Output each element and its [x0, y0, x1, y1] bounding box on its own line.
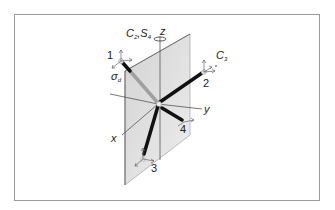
label-atom-1: 1: [107, 50, 113, 61]
label-axis-z: z: [160, 26, 166, 37]
label-c2-s4: C2,S4: [126, 28, 151, 40]
label-c3: C3: [216, 50, 227, 62]
atom-2-arrows-icon: [202, 60, 216, 75]
label-atom-2: 2: [203, 78, 209, 89]
bond-1-front: [122, 62, 130, 71]
label-axis-x: x: [111, 133, 117, 144]
label-atom-3: 3: [151, 163, 157, 174]
central-atom: [157, 102, 162, 107]
c3-axis-marker: [215, 65, 217, 67]
label-atom-4: 4: [180, 124, 186, 135]
label-sigma-d: σd: [111, 71, 121, 83]
label-axis-y: y: [204, 104, 210, 115]
tetrahedral-diagram: [0, 0, 335, 210]
atom-1-arrows-icon: [112, 50, 132, 68]
